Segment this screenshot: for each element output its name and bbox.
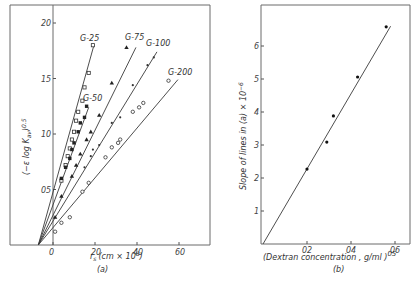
panel-a-fit-lines xyxy=(38,45,178,245)
data-point xyxy=(137,106,140,109)
data-point xyxy=(78,152,82,156)
fit-line-g-100 xyxy=(38,52,157,245)
data-point xyxy=(87,181,90,184)
data-point xyxy=(325,140,328,143)
fit-line xyxy=(263,26,391,244)
panel-b-fit-line xyxy=(263,26,391,244)
data-point xyxy=(70,148,73,151)
y-tick-label: 15 xyxy=(41,75,51,84)
panel-a-caption: (a) xyxy=(97,265,108,274)
data-point xyxy=(110,146,113,149)
data-point xyxy=(68,157,71,160)
panel-b-caption: (b) xyxy=(333,265,344,274)
data-point xyxy=(167,79,170,82)
data-point xyxy=(68,216,71,219)
data-point xyxy=(111,122,113,124)
panel-a: 020406005101520 G-25G-50G-75G-100G-200 r… xyxy=(10,5,210,274)
y-tick-label: 5 xyxy=(254,75,259,84)
data-point xyxy=(385,25,388,28)
data-point xyxy=(119,138,122,141)
y-tick-label: 2 xyxy=(254,174,259,183)
panel-b-xlabel: (Dextran concentration , g/ml )05 xyxy=(263,250,397,262)
y-tick-label: 1 xyxy=(254,207,259,216)
panel-a-xlabel: rs(cm × 108) xyxy=(90,250,143,262)
panel-a-ylabel: (−ε log Kav)0.5 xyxy=(20,118,32,175)
y-tick-label: 4 xyxy=(254,108,259,117)
data-point xyxy=(90,155,92,157)
series-label-g-100: G-100 xyxy=(146,39,170,48)
data-point xyxy=(83,86,86,89)
data-point xyxy=(53,230,56,233)
data-point xyxy=(84,137,88,141)
panel-b-data-points xyxy=(305,25,387,170)
data-point xyxy=(60,221,63,224)
panel-b-frame xyxy=(261,5,410,244)
fit-line-g-50 xyxy=(38,107,88,245)
panel-a-data-points xyxy=(53,44,170,234)
y-tick-label: 20 xyxy=(41,19,51,28)
data-point xyxy=(89,130,93,134)
data-point xyxy=(124,45,128,49)
y-tick-label: 3 xyxy=(254,141,259,150)
data-point xyxy=(77,110,80,113)
x-tick-label: 0 xyxy=(49,248,54,257)
data-point xyxy=(116,141,119,144)
series-label-g-25: G-25 xyxy=(80,34,99,43)
data-point xyxy=(104,156,107,159)
data-point xyxy=(142,101,145,104)
data-point xyxy=(305,167,308,170)
figure: 020406005101520 G-25G-50G-75G-100G-200 r… xyxy=(0,0,416,285)
series-label-g-50: G-50 xyxy=(83,94,102,103)
data-point xyxy=(146,64,148,66)
y-tick-label: 6 xyxy=(254,42,259,51)
panel-b-ylabel: Slope of lines in (a) × 10−6 xyxy=(237,82,248,190)
panel-a-series-labels: G-25G-50G-75G-100G-200 xyxy=(80,33,192,103)
data-point xyxy=(83,116,86,119)
data-point xyxy=(91,44,94,47)
data-point xyxy=(75,119,78,122)
data-point xyxy=(79,121,82,124)
data-point xyxy=(356,75,359,78)
x-tick-label: 60 xyxy=(175,248,185,257)
data-point xyxy=(110,81,114,85)
data-point xyxy=(92,148,94,150)
panel-b: 020406123456 (Dextran concentration , g/… xyxy=(237,5,410,274)
data-point xyxy=(119,116,121,118)
data-point xyxy=(77,130,80,133)
data-point xyxy=(85,105,88,108)
data-point xyxy=(72,141,75,144)
data-point xyxy=(83,166,85,168)
data-point xyxy=(153,56,155,58)
panel-a-frame xyxy=(10,5,210,245)
panel-b-ticks: 020406123456 xyxy=(254,42,400,255)
y-tick-label: 10 xyxy=(41,130,51,139)
data-point xyxy=(64,166,67,169)
data-point xyxy=(98,144,100,146)
data-point xyxy=(87,71,90,74)
series-label-g-75: G-75 xyxy=(125,33,144,42)
data-point xyxy=(131,110,134,113)
data-point xyxy=(132,84,134,86)
data-point xyxy=(60,177,63,180)
y-tick-label: 05 xyxy=(41,186,51,195)
data-point xyxy=(70,138,73,141)
data-point xyxy=(72,130,75,133)
data-point xyxy=(97,113,101,117)
data-point xyxy=(81,190,84,193)
data-point xyxy=(332,114,335,117)
series-label-g-200: G-200 xyxy=(168,68,192,77)
